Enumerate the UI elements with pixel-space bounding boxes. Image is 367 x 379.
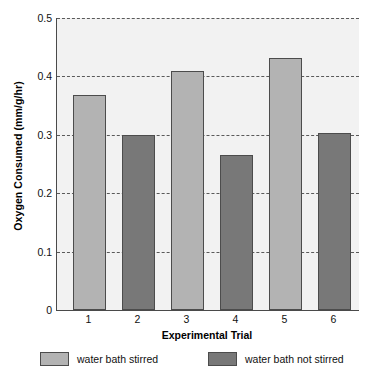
legend-entry-stirred: water bath stirred — [40, 350, 158, 368]
bar-trial-1 — [73, 95, 106, 310]
gridline-0.4 — [57, 76, 359, 77]
x-tick-label: 5 — [282, 313, 288, 325]
y-tick-label: 0 — [18, 304, 52, 316]
plot-area — [56, 18, 359, 311]
gridline-0.5 — [57, 18, 359, 19]
x-tick-label: 3 — [184, 313, 190, 325]
y-tick-label: 0.3 — [18, 129, 52, 141]
x-tick-label: 6 — [331, 313, 337, 325]
legend-label-not-stirred: water bath not stirred — [245, 353, 344, 365]
legend-entry-not-stirred: water bath not stirred — [208, 350, 344, 368]
x-axis-title: Experimental Trial — [56, 329, 358, 341]
x-tick-label: 4 — [233, 313, 239, 325]
y-tick-label: 0.5 — [18, 12, 52, 24]
bar-chart-figure: Oxygen Consumed (mm/g/hr) 0.5 0.4 0.3 0.… — [0, 0, 367, 379]
legend-swatch-icon-stirred — [40, 352, 69, 366]
y-axis-tick-labels: 0.5 0.4 0.3 0.2 0.1 0 — [12, 18, 52, 310]
chart-legend: water bath stirred water bath not stirre… — [40, 350, 350, 370]
x-axis-tick-labels: 1 2 3 4 5 6 — [56, 313, 358, 329]
x-tick-label: 2 — [135, 313, 141, 325]
bar-trial-6 — [318, 133, 351, 310]
bar-trial-3 — [171, 71, 204, 310]
y-tick-label: 0.4 — [18, 70, 52, 82]
legend-label-stirred: water bath stirred — [77, 353, 158, 365]
bar-trial-2 — [122, 135, 155, 310]
legend-swatch-icon-not-stirred — [208, 352, 237, 366]
bar-trial-5 — [269, 58, 302, 310]
bar-trial-4 — [220, 155, 253, 310]
y-tick-label: 0.1 — [18, 246, 52, 258]
x-tick-label: 1 — [86, 313, 92, 325]
y-tick-label: 0.2 — [18, 187, 52, 199]
